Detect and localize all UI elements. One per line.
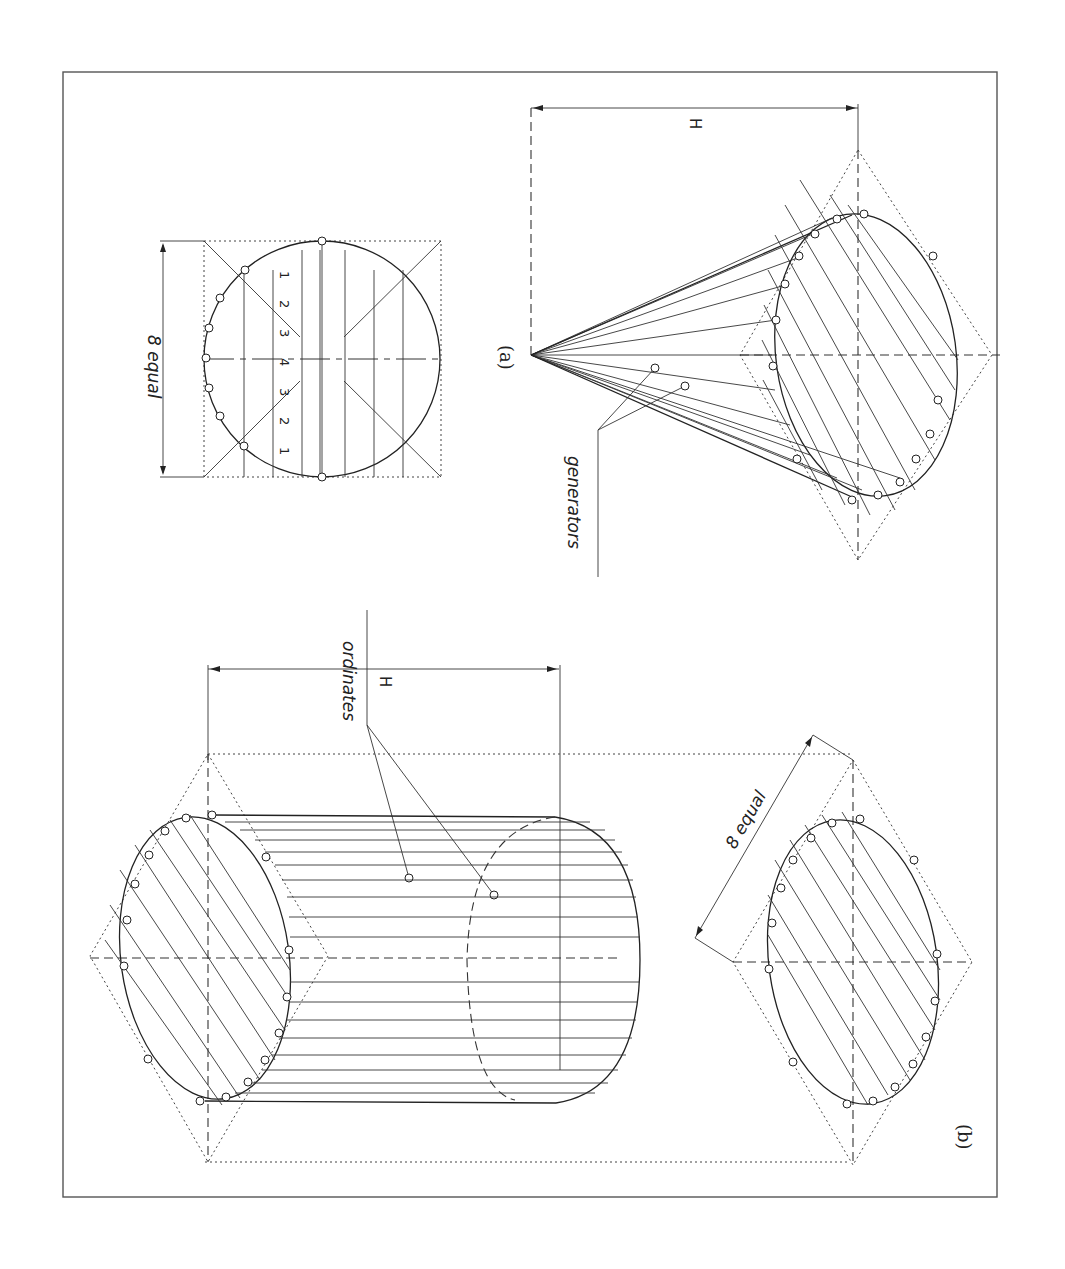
panel-b-ellipse: 8 equal [695, 735, 972, 1165]
label-8-equal-b: 8 equal [721, 787, 770, 852]
ordinate-number: 3 [277, 388, 292, 396]
label-generators: generators [564, 456, 584, 549]
ordinate-number: 2 [277, 417, 292, 425]
label-8-equal-a: 8 equal [144, 335, 164, 399]
technical-drawing: 1 2 3 4 3 2 1 8 equal (a) H [0, 0, 1065, 1269]
ordinate-number: 1 [277, 271, 292, 279]
caption-b: (b) [954, 1124, 975, 1150]
panel-b-cylinder: H ordinates [90, 610, 975, 1162]
ordinate-number: 4 [277, 358, 292, 366]
label-ordinates: ordinates [339, 641, 359, 721]
ordinate-number: 2 [277, 300, 292, 308]
ordinate-number: 3 [277, 329, 292, 337]
label-H-cone: H [686, 118, 704, 129]
caption-a: (a) [496, 345, 517, 370]
panel-a-plan-circle: 1 2 3 4 3 2 1 8 equal (a) [144, 237, 517, 481]
panel-a-cone: H [531, 104, 1000, 577]
label-H-cylinder: H [376, 676, 394, 687]
ordinate-number: 1 [277, 447, 292, 455]
